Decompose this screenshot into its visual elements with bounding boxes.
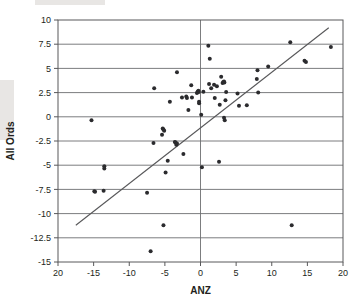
data-point: [245, 103, 249, 107]
y-tick-label: 2.5: [38, 88, 51, 98]
data-point: [175, 70, 179, 74]
data-point: [219, 75, 223, 79]
data-point: [149, 249, 153, 253]
y-tick-label: -15: [38, 257, 51, 267]
x-tick-label: 5: [234, 268, 239, 278]
data-point: [223, 118, 227, 122]
data-point: [209, 86, 213, 90]
data-point: [236, 92, 240, 96]
data-point: [160, 133, 164, 137]
data-point: [217, 160, 221, 164]
data-point: [168, 100, 172, 104]
data-point: [237, 104, 241, 108]
data-point: [215, 84, 219, 88]
y-axis-title: All Ords: [5, 121, 16, 160]
data-point: [256, 91, 260, 95]
y-tick-label: -12.5: [30, 233, 51, 243]
x-tick-label: 20: [53, 268, 63, 278]
data-point: [185, 96, 189, 100]
tickmarks-group: [54, 20, 343, 266]
y-tick-label: -2.5: [35, 136, 51, 146]
data-point: [200, 165, 204, 169]
plot-svg: 20-15-10-505101520 107.552.50-2.5-5-7.5-…: [0, 0, 355, 306]
data-point: [181, 152, 185, 156]
scan-artifact: [35, 0, 105, 5]
data-point: [288, 40, 292, 44]
y-tick-label: 7.5: [38, 39, 51, 49]
x-tick-labels-group: 20-15-10-505101520: [53, 268, 348, 278]
data-point: [164, 170, 168, 174]
data-point: [161, 223, 165, 227]
data-point: [224, 90, 228, 94]
regression-line-group: [76, 28, 329, 225]
data-point: [166, 159, 170, 163]
data-point: [102, 189, 106, 193]
data-point: [213, 96, 217, 100]
data-point: [201, 90, 205, 94]
x-tick-label: 0: [198, 268, 203, 278]
data-point: [206, 44, 210, 48]
data-point: [304, 60, 308, 64]
data-point: [152, 86, 156, 90]
data-point: [329, 45, 333, 49]
data-point: [89, 118, 93, 122]
y-tick-labels-group: 107.552.50-2.5-5-7.5-10-12.5-15: [30, 15, 51, 267]
data-point: [151, 141, 155, 145]
data-point: [197, 90, 201, 94]
x-tick-label: 20: [338, 268, 348, 278]
data-point: [189, 83, 193, 87]
data-point: [290, 223, 294, 227]
y-tick-label: 10: [41, 15, 51, 25]
data-point: [190, 95, 194, 99]
y-tick-label: -10: [38, 209, 51, 219]
x-tick-label: 15: [302, 268, 312, 278]
data-point: [102, 167, 106, 171]
gridlines-group: [58, 20, 343, 262]
data-point: [199, 113, 203, 117]
x-axis-title: ANZ: [190, 285, 211, 296]
x-tick-label: -15: [87, 268, 100, 278]
data-point: [162, 129, 166, 133]
scatter-chart: 20-15-10-505101520 107.552.50-2.5-5-7.5-…: [0, 0, 355, 306]
data-point: [256, 68, 260, 72]
y-tick-label: -5: [43, 160, 51, 170]
data-point: [93, 190, 97, 194]
y-tick-label: 5: [46, 64, 51, 74]
data-point: [197, 100, 201, 104]
y-tick-label: -7.5: [35, 185, 51, 195]
data-point: [266, 64, 270, 68]
regression-line: [76, 28, 329, 225]
data-point: [186, 108, 190, 112]
data-point: [180, 95, 184, 99]
data-point: [208, 57, 212, 61]
data-points-group: [89, 40, 332, 253]
x-tick-label: -5: [161, 268, 169, 278]
data-point: [175, 141, 179, 145]
x-tick-label: 10: [267, 268, 277, 278]
data-point: [255, 77, 259, 81]
data-point: [218, 103, 222, 107]
data-point: [222, 80, 226, 84]
x-tick-label: -10: [123, 268, 136, 278]
data-point: [207, 82, 211, 86]
data-point: [145, 191, 149, 195]
y-tick-label: 0: [46, 112, 51, 122]
data-point: [223, 98, 227, 102]
